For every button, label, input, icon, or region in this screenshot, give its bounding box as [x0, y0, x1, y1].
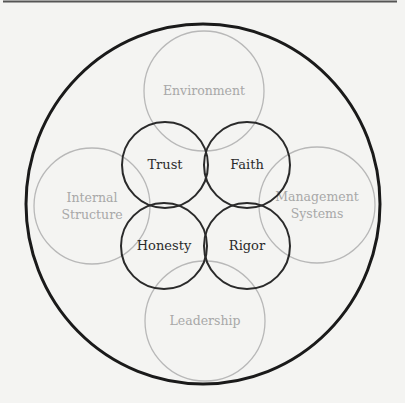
outer-circle-label: Structure: [61, 207, 122, 222]
inner-circle-label: Faith: [230, 157, 264, 172]
outer-circle-environment: Environment: [144, 31, 264, 151]
outer-circle-label: Environment: [163, 83, 245, 98]
inner-circle-label: Honesty: [137, 238, 192, 253]
values-diagram: EnvironmentInternalStructureManagementSy…: [0, 0, 405, 403]
inner-circle-rigor: Rigor: [204, 203, 290, 289]
outer-circle-label: Leadership: [170, 313, 241, 328]
outer-circle-internal-structure: InternalStructure: [34, 148, 150, 264]
inner-circle-trust: Trust: [122, 122, 208, 208]
outer-circle-label: Management: [275, 189, 358, 204]
inner-circle-faith: Faith: [204, 122, 290, 208]
outer-circle-management-systems: ManagementSystems: [259, 147, 375, 263]
outer-circle-label: Internal: [67, 190, 118, 205]
inner-circle-label: Rigor: [229, 238, 266, 253]
outer-circle-label: Systems: [291, 206, 344, 221]
outer-circle-leadership: Leadership: [145, 261, 265, 381]
inner-circle-label: Trust: [147, 157, 183, 172]
